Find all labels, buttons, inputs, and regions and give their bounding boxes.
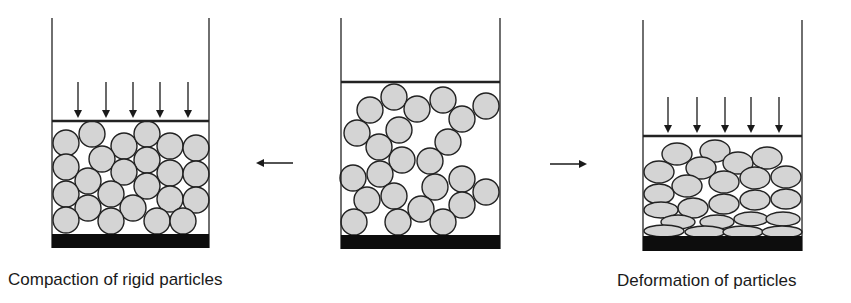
lower-punch-base — [341, 235, 500, 249]
particle — [404, 96, 430, 122]
particle — [644, 225, 684, 237]
particles — [644, 140, 802, 238]
particle — [430, 87, 456, 113]
particles — [340, 84, 499, 235]
particle — [740, 190, 770, 210]
particle — [134, 147, 160, 173]
particle — [134, 121, 160, 147]
caption-compaction-rigid-particles: Compaction of rigid particles — [8, 270, 222, 290]
particle — [340, 165, 366, 191]
particle — [134, 173, 160, 199]
particle — [357, 97, 383, 123]
particle — [98, 208, 124, 234]
particle — [53, 207, 79, 233]
particle — [752, 147, 782, 169]
particle — [422, 174, 448, 200]
particle — [740, 167, 770, 189]
particle — [53, 154, 79, 180]
particle — [344, 120, 370, 146]
particle — [381, 183, 407, 209]
particle — [157, 133, 183, 159]
particle — [183, 161, 209, 187]
particle — [170, 208, 196, 234]
powder-compaction-diagram — [0, 0, 851, 303]
particle — [79, 121, 105, 147]
particle — [98, 181, 124, 207]
particle — [771, 166, 801, 188]
particle — [672, 175, 702, 197]
particle — [766, 212, 800, 226]
panel-deformation-of-particles — [643, 20, 802, 251]
panel-initial-loose-powder — [340, 18, 500, 249]
particle — [389, 147, 415, 173]
particle — [157, 160, 183, 186]
particle — [709, 171, 739, 193]
particle — [644, 184, 674, 204]
particle — [367, 161, 393, 187]
particles — [53, 121, 209, 234]
particle — [417, 148, 443, 174]
particle — [734, 212, 768, 226]
particle — [366, 134, 392, 160]
caption-deformation-of-particles: Deformation of particles — [617, 271, 797, 291]
particle — [644, 161, 674, 183]
particle — [709, 194, 739, 214]
panel-compaction-rigid-particles — [52, 18, 209, 248]
particle — [381, 84, 407, 110]
particle — [341, 209, 367, 235]
particle — [53, 130, 79, 156]
particle — [144, 208, 170, 234]
particle — [385, 209, 411, 235]
particle — [449, 106, 475, 132]
particle — [449, 166, 475, 192]
lower-punch-base — [52, 234, 209, 248]
particle — [473, 93, 499, 119]
lower-punch-base — [643, 236, 802, 251]
particle — [430, 209, 456, 235]
particle — [771, 189, 801, 209]
particle — [53, 181, 79, 207]
particle — [473, 179, 499, 205]
particle — [183, 135, 209, 161]
